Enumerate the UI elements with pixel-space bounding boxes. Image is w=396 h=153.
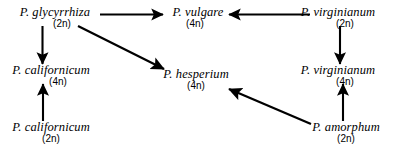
node-californicum-2n: P. californicum (2n): [3, 121, 99, 144]
node-virginianum-4n: P. virginianum (4n): [289, 64, 387, 87]
ploidy-label: (2n): [301, 134, 391, 144]
species-label: P. hesperium: [153, 68, 239, 81]
species-label: P. glycyrrhiza: [8, 6, 102, 19]
species-label: P. californicum: [3, 121, 99, 134]
ploidy-label: (2n): [3, 134, 99, 144]
node-glycyrrhiza: P. glycyrrhiza (2n): [8, 6, 102, 29]
hybridization-diagram: P. glycyrrhiza (2n) P. vulgare (4n) P. v…: [0, 0, 396, 153]
node-virginianum-2n: P. virginianum (2n): [289, 6, 387, 29]
ploidy-label: (4n): [153, 81, 239, 91]
ploidy-label: (4n): [17, 77, 99, 87]
arrow-amorphum-to-hesperium: [229, 89, 311, 124]
node-amorphum: P. amorphum (2n): [301, 121, 391, 144]
ploidy-label: (4n): [167, 19, 223, 29]
ploidy-label: (2n): [303, 19, 387, 29]
species-label: P. vulgare: [167, 6, 229, 19]
node-vulgare: P. vulgare (4n): [167, 6, 229, 29]
species-label: P. virginianum: [289, 6, 387, 19]
species-label: P. virginianum: [289, 64, 387, 77]
arrow-glycyrrhiza-to-hesperium: [78, 26, 164, 69]
species-label: P. californicum: [3, 64, 99, 77]
node-californicum-4n: P. californicum (4n): [3, 64, 99, 87]
species-label: P. amorphum: [301, 121, 391, 134]
ploidy-label: (2n): [22, 19, 102, 29]
node-hesperium: P. hesperium (4n): [153, 68, 239, 91]
ploidy-label: (4n): [303, 77, 387, 87]
